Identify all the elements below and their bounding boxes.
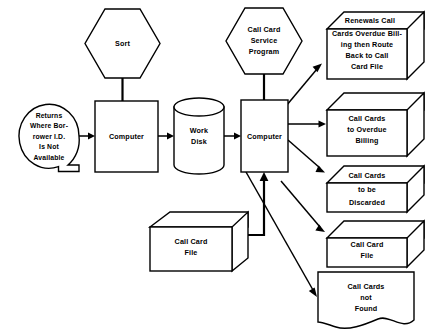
node-not-found-line-2: not [360, 293, 372, 302]
node-overdue-billing-line-2: to Overdue [347, 125, 386, 134]
node-returns-line-2: Where Bor- [30, 122, 68, 129]
node-computer-1-label: Computer [109, 132, 144, 141]
node-overdue-billing-line-3: Billing [355, 136, 378, 145]
node-returns-line-5: Available [34, 154, 65, 161]
node-not-found-line-3: Found [355, 304, 378, 313]
node-service-program-line-3: Program [249, 47, 280, 56]
node-renewals: Renewals Call Cards Overdue Bill- ing th… [327, 12, 424, 79]
node-not-found: Call Cards not Found [318, 272, 414, 328]
node-overdue-billing: Call Cards to Overdue Billing [327, 93, 424, 156]
node-renewals-line-3: ing then Route [341, 40, 393, 49]
node-returns: Returns Where Bor- rower I.D. Is Not Ava… [19, 104, 79, 171]
node-discarded-line-1: Call Cards [348, 171, 385, 180]
node-renewals-line-2: Cards Overdue Bill- [332, 29, 402, 38]
node-returns-line-3: rower I.D. [33, 133, 65, 140]
node-call-card-file-output: Call Card File [327, 221, 424, 267]
node-computer-2: Computer [241, 100, 288, 172]
edge-computer1-to-workdisk [158, 133, 174, 140]
node-work-disk: Work Disk [174, 98, 224, 174]
node-call-card-file-output-line-2: File [361, 251, 374, 260]
node-renewals-line-4: Back to Call [346, 51, 389, 60]
flowchart-diagram: Sort Returns Where Bor- rower I.D. Is No… [0, 0, 429, 335]
node-sort: Sort [85, 9, 160, 78]
node-call-card-file-input: Call Card File [150, 212, 248, 271]
flowchart-canvas: Sort Returns Where Bor- rower I.D. Is No… [0, 0, 429, 335]
node-service-program-line-1: Call Card [248, 25, 281, 34]
node-computer-1: Computer [95, 101, 158, 172]
edge-computer2-to-callcardfileoutput [281, 181, 325, 232]
node-work-disk-line-2: Disk [191, 137, 207, 146]
node-overdue-billing-line-1: Call Cards [348, 114, 385, 123]
node-computer-2-label: Computer [247, 132, 282, 141]
node-returns-line-4: Is Not [39, 143, 59, 150]
edge-workdisk-to-computer2 [224, 133, 241, 140]
edge-returns-to-computer1 [79, 133, 95, 140]
node-work-disk-line-1: Work [190, 126, 208, 135]
node-call-card-file-input-line-2: File [185, 248, 198, 257]
node-renewals-line-1: Renewals Call [345, 16, 395, 25]
node-not-found-line-1: Call Cards [347, 282, 384, 291]
node-returns-line-1: Returns [36, 112, 63, 119]
node-call-card-file-output-line-1: Call Card [351, 240, 384, 249]
node-call-card-file-input-line-1: Call Card [175, 237, 208, 246]
node-discarded-line-3: Discarded [349, 198, 385, 207]
node-sort-label: Sort [115, 39, 130, 48]
node-service-program-line-2: Service [251, 36, 278, 45]
node-discarded: Call Cards to be Discarded [327, 166, 424, 212]
node-service-program: Call Card Service Program [226, 8, 302, 74]
edge-computer2-to-discarded [288, 140, 325, 173]
edge-computer2-to-overduebilling [288, 120, 326, 127]
node-discarded-line-2: to be [358, 185, 376, 194]
node-renewals-line-5: Card File [351, 62, 383, 71]
